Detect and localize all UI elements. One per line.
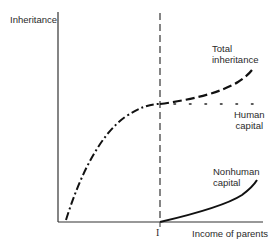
nonhuman-capital-label-line1: Nonhuman xyxy=(213,166,259,177)
human-capital-label-line1: Human xyxy=(234,109,265,120)
nonhuman-capital-label: Nonhuman capital xyxy=(213,166,259,188)
nonhuman-capital-label-line2: capital xyxy=(213,177,259,188)
human-capital-curve-rising xyxy=(66,104,160,220)
total-inheritance-curve xyxy=(160,67,254,104)
human-capital-label-line2: capital xyxy=(234,120,265,131)
total-inheritance-label-line2: inheritance xyxy=(212,54,258,65)
y-axis-label: Inheritance xyxy=(10,14,57,25)
total-inheritance-label-line1: Total xyxy=(212,43,258,54)
x-axis-label: Income of parents xyxy=(192,228,268,239)
threshold-marker-label: I xyxy=(156,227,159,238)
human-capital-label: Human capital xyxy=(234,109,265,131)
cropped-caption xyxy=(0,243,275,247)
total-inheritance-label: Total inheritance xyxy=(212,43,258,65)
inheritance-diagram: Inheritance Total inheritance Human capi… xyxy=(0,0,275,247)
